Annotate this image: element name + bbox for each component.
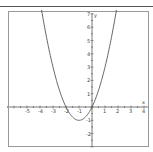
x-axis-label: x (142, 99, 145, 105)
y-tick-label: 4 (87, 51, 90, 57)
y-tick-label: 7 (87, 11, 90, 17)
x-tick-label: 1 (103, 108, 106, 114)
x-tick-label: 4 (142, 108, 145, 114)
plot-frame (9, 12, 149, 147)
y-tick-label: 3 (87, 64, 90, 70)
function-graph: -5-4-3-2-112347654321-1-2 x y (0, 0, 153, 152)
y-tick-label: 5 (87, 38, 90, 44)
x-tick-label: -3 (51, 108, 56, 114)
y-axis-label: y (94, 12, 97, 19)
x-tick-label: -5 (25, 108, 30, 114)
y-tick-label: 2 (87, 77, 90, 83)
x-tick-label: -4 (38, 108, 43, 114)
x-tick-label: 2 (116, 108, 119, 114)
y-tick-label: -2 (86, 131, 91, 137)
x-tick-label: 3 (129, 108, 132, 114)
x-tick-label: -1 (77, 108, 82, 114)
y-tick-label: 6 (87, 24, 90, 30)
y-tick-label: 1 (87, 91, 90, 97)
y-tick-label: -1 (86, 117, 91, 123)
